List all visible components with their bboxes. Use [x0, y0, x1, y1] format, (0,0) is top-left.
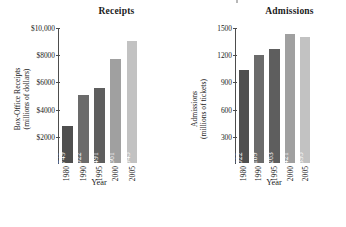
y-axis-tick-labels-admissions: 30060090012001500: [173, 28, 232, 164]
y-tick-label: $2000: [37, 132, 55, 141]
bar-slot: 1421: [282, 28, 297, 163]
y-axis-tick: [56, 28, 60, 29]
two-panel-bar-figure: Receipts Box-Office Receipts (millions o…: [0, 0, 346, 227]
y-tick-label: $6000: [37, 78, 55, 87]
panel-admissions: Admissions Admissions (millions of ticke…: [173, 0, 346, 227]
bar: 1263: [269, 49, 279, 164]
y-axis-tick: [56, 110, 60, 111]
y-axis-tick-labels-receipts: $2000$4000$6000$8000$10,000: [0, 28, 55, 164]
y-tick-label: $4000: [37, 105, 55, 114]
chart-title-admissions: Admissions: [173, 6, 346, 16]
bar: 1189: [254, 55, 264, 163]
bar-slot: 1022: [236, 28, 251, 163]
y-tick-label: 300: [221, 132, 232, 141]
bar: 8945: [127, 41, 138, 163]
bar-slot: 5022: [75, 28, 91, 163]
bar-series-admissions: 10221189126314211395: [236, 28, 313, 163]
bar: 1395: [300, 37, 310, 163]
bar: 7661: [110, 59, 121, 163]
panel-receipts: Receipts Box-Office Receipts (millions o…: [0, 0, 173, 227]
y-tick-label: 1200: [217, 51, 232, 60]
y-tick-label: 900: [221, 78, 232, 87]
y-axis-tick: [56, 137, 60, 138]
bar-slot: 8945: [124, 28, 140, 163]
y-axis-tick: [233, 28, 237, 29]
bar-slot: 2749: [59, 28, 75, 163]
y-axis-tick: [233, 137, 237, 138]
plot-area-receipts: 27495022549176618945: [58, 28, 140, 164]
y-tick-label: $10,000: [31, 24, 55, 33]
y-axis-tick: [56, 82, 60, 83]
bar: 5022: [78, 95, 89, 163]
bar-slot: 1263: [267, 28, 282, 163]
plot-area-admissions: 10221189126314211395: [235, 28, 313, 164]
bar: 2749: [62, 126, 73, 163]
bar: 1421: [285, 34, 295, 163]
bar-slot: 1395: [298, 28, 313, 163]
x-axis-title-admissions: Year: [235, 178, 313, 187]
y-tick-label: 1500: [217, 24, 232, 33]
x-axis-title-receipts: Year: [58, 178, 140, 187]
y-axis-tick: [56, 55, 60, 56]
bar-series-receipts: 27495022549176618945: [59, 28, 140, 163]
y-axis-tick: [233, 110, 237, 111]
bar: 5491: [94, 88, 105, 163]
y-tick-label: 600: [221, 105, 232, 114]
y-tick-label: $8000: [37, 51, 55, 60]
bar-slot: 7661: [108, 28, 124, 163]
page-crop-artifact: [236, 0, 238, 3]
y-axis-tick: [233, 82, 237, 83]
bar-slot: 1189: [251, 28, 266, 163]
y-axis-tick: [233, 55, 237, 56]
bar-slot: 5491: [91, 28, 107, 163]
bar: 1022: [239, 70, 249, 163]
